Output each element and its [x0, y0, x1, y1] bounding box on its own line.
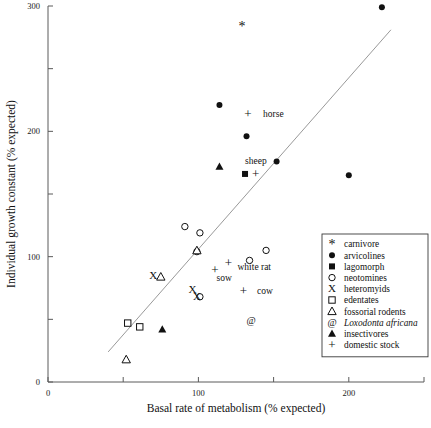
series-fossorial-rodents	[122, 246, 201, 363]
legend-marker-x-cross-icon: X	[328, 282, 336, 294]
legend-label: carnivore	[344, 239, 379, 249]
data-point	[274, 158, 280, 164]
data-point	[216, 102, 222, 108]
y-tick-label: 200	[27, 126, 40, 136]
scatter-plot-figure: 01002000100200300 *XXX@+++++ horsesheepw…	[0, 0, 431, 428]
axis-titles-layer: Basal rate of metabolism (% expected)Ind…	[5, 100, 325, 415]
legend-label: domestic stock	[344, 340, 400, 350]
plot-canvas: 01002000100200300 *XXX@+++++ horsesheepw…	[0, 0, 431, 428]
data-point: +	[252, 166, 259, 181]
y-axis-title: Individual growth constant (% expected)	[5, 100, 18, 288]
legend-label: Loxodonta africana	[343, 318, 418, 328]
data-point	[244, 133, 250, 139]
legend-marker-filled-square-icon	[329, 263, 335, 269]
legend-marker-open-square-icon	[329, 297, 335, 303]
data-point	[242, 171, 248, 177]
series-insectivores	[158, 162, 223, 332]
data-point	[379, 4, 385, 10]
legend-label: neotomines	[344, 273, 387, 283]
x-tick-label: 0	[46, 388, 50, 398]
legend-marker-asterisk-icon: *	[329, 237, 336, 252]
legend-marker-filled-circle-icon	[329, 252, 335, 258]
point-label: horse	[263, 109, 284, 119]
data-point: *	[239, 19, 246, 34]
legend-label: heteromyids	[344, 284, 390, 294]
data-point: X	[149, 269, 157, 281]
data-point: +	[244, 106, 251, 121]
x-tick-label: 200	[342, 388, 355, 398]
legend-marker-plus-icon: +	[328, 337, 335, 352]
data-point	[158, 325, 166, 332]
data-point	[346, 172, 352, 178]
series-lagomorph	[242, 171, 248, 177]
data-point: X	[193, 290, 201, 302]
point-label: cow	[257, 286, 273, 296]
y-tick-label: 0	[36, 377, 40, 387]
legend-label: fossorial rodents	[344, 307, 406, 317]
legend-label: arvicolines	[344, 251, 385, 261]
data-point: @	[246, 315, 255, 326]
point-label: white rat	[238, 262, 272, 272]
data-point	[157, 273, 165, 281]
point-label: sow	[216, 273, 231, 283]
series-loxodonta-africana: @	[246, 315, 255, 326]
data-point	[137, 324, 143, 330]
data-point	[197, 230, 203, 236]
legend-marker-open-circle-icon	[329, 274, 335, 280]
series-edentates	[125, 320, 143, 330]
series-heteromyids: XXX	[149, 269, 201, 302]
y-tick-label: 300	[27, 1, 40, 11]
legend-marker-at-sign-icon: @	[327, 317, 336, 328]
legend-label: lagomorph	[344, 262, 385, 272]
legend: *carnivorearvicolineslagomorphneotomines…	[322, 234, 428, 357]
y-tick-label: 100	[27, 252, 40, 262]
data-point	[122, 355, 130, 363]
data-point	[182, 223, 188, 229]
data-point	[215, 162, 223, 169]
data-point: +	[240, 283, 247, 298]
x-axis-title: Basal rate of metabolism (% expected)	[147, 402, 326, 415]
x-tick-label: 100	[192, 388, 205, 398]
legend-label: insectivores	[344, 329, 389, 339]
data-point	[125, 320, 131, 326]
data-point	[263, 247, 269, 253]
legend-label: edentates	[344, 295, 379, 305]
point-label: sheep	[245, 156, 267, 166]
data-point: +	[225, 255, 232, 270]
series-carnivore: *	[239, 19, 246, 34]
